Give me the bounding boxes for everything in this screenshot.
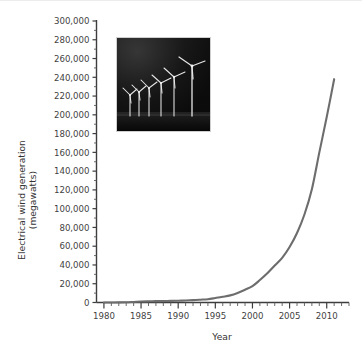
x-axis-tick-label: 1990 bbox=[167, 311, 189, 321]
y-axis-tick-label: 160,000 bbox=[54, 148, 90, 158]
wind-turbine-photograph bbox=[116, 37, 211, 132]
y-axis-tick-label: 0 bbox=[84, 298, 89, 308]
x-axis-tick-label: 2005 bbox=[279, 311, 301, 321]
y-axis-tick-label: 280,000 bbox=[54, 35, 90, 45]
x-axis-tick-label: 1985 bbox=[130, 311, 152, 321]
y-axis-tick-label: 40,000 bbox=[59, 260, 89, 270]
y-axis-tick-label: 180,000 bbox=[54, 129, 90, 139]
y-axis-tick-label: 260,000 bbox=[54, 54, 90, 64]
wind-turbine-photo-graphic bbox=[117, 38, 210, 131]
y-axis-tick-label: 220,000 bbox=[54, 91, 90, 101]
x-axis-title: Year bbox=[211, 331, 232, 342]
y-axis-tick-label: 100,000 bbox=[54, 204, 90, 214]
y-axis-tick-label: 120,000 bbox=[54, 185, 90, 195]
x-axis-tick-label: 2010 bbox=[316, 311, 338, 321]
y-axis-title-line1: Electrical wind generation bbox=[16, 140, 27, 260]
y-axis-title-line2: (megawatts) bbox=[27, 171, 38, 229]
x-axis-tick-label: 1980 bbox=[93, 311, 115, 321]
x-axis-tick-group: 1980198519901995200020052010 bbox=[93, 303, 349, 321]
y-axis-tick-group: 020,00040,00060,00080,000100,000120,0001… bbox=[54, 16, 97, 308]
y-axis-tick-label: 200,000 bbox=[54, 110, 90, 120]
y-axis-tick-label: 80,000 bbox=[59, 223, 89, 233]
y-axis-tick-label: 140,000 bbox=[54, 166, 90, 176]
y-axis-tick-label: 300,000 bbox=[54, 16, 90, 26]
y-axis-tick-label: 20,000 bbox=[59, 279, 89, 289]
y-axis-tick-label: 60,000 bbox=[59, 241, 89, 251]
wind-generation-chart-figure: 020,00040,00060,00080,000100,000120,0001… bbox=[0, 0, 362, 353]
x-axis-tick-label: 2000 bbox=[242, 311, 264, 321]
y-axis-tick-label: 240,000 bbox=[54, 73, 90, 83]
x-axis-tick-label: 1995 bbox=[204, 311, 226, 321]
